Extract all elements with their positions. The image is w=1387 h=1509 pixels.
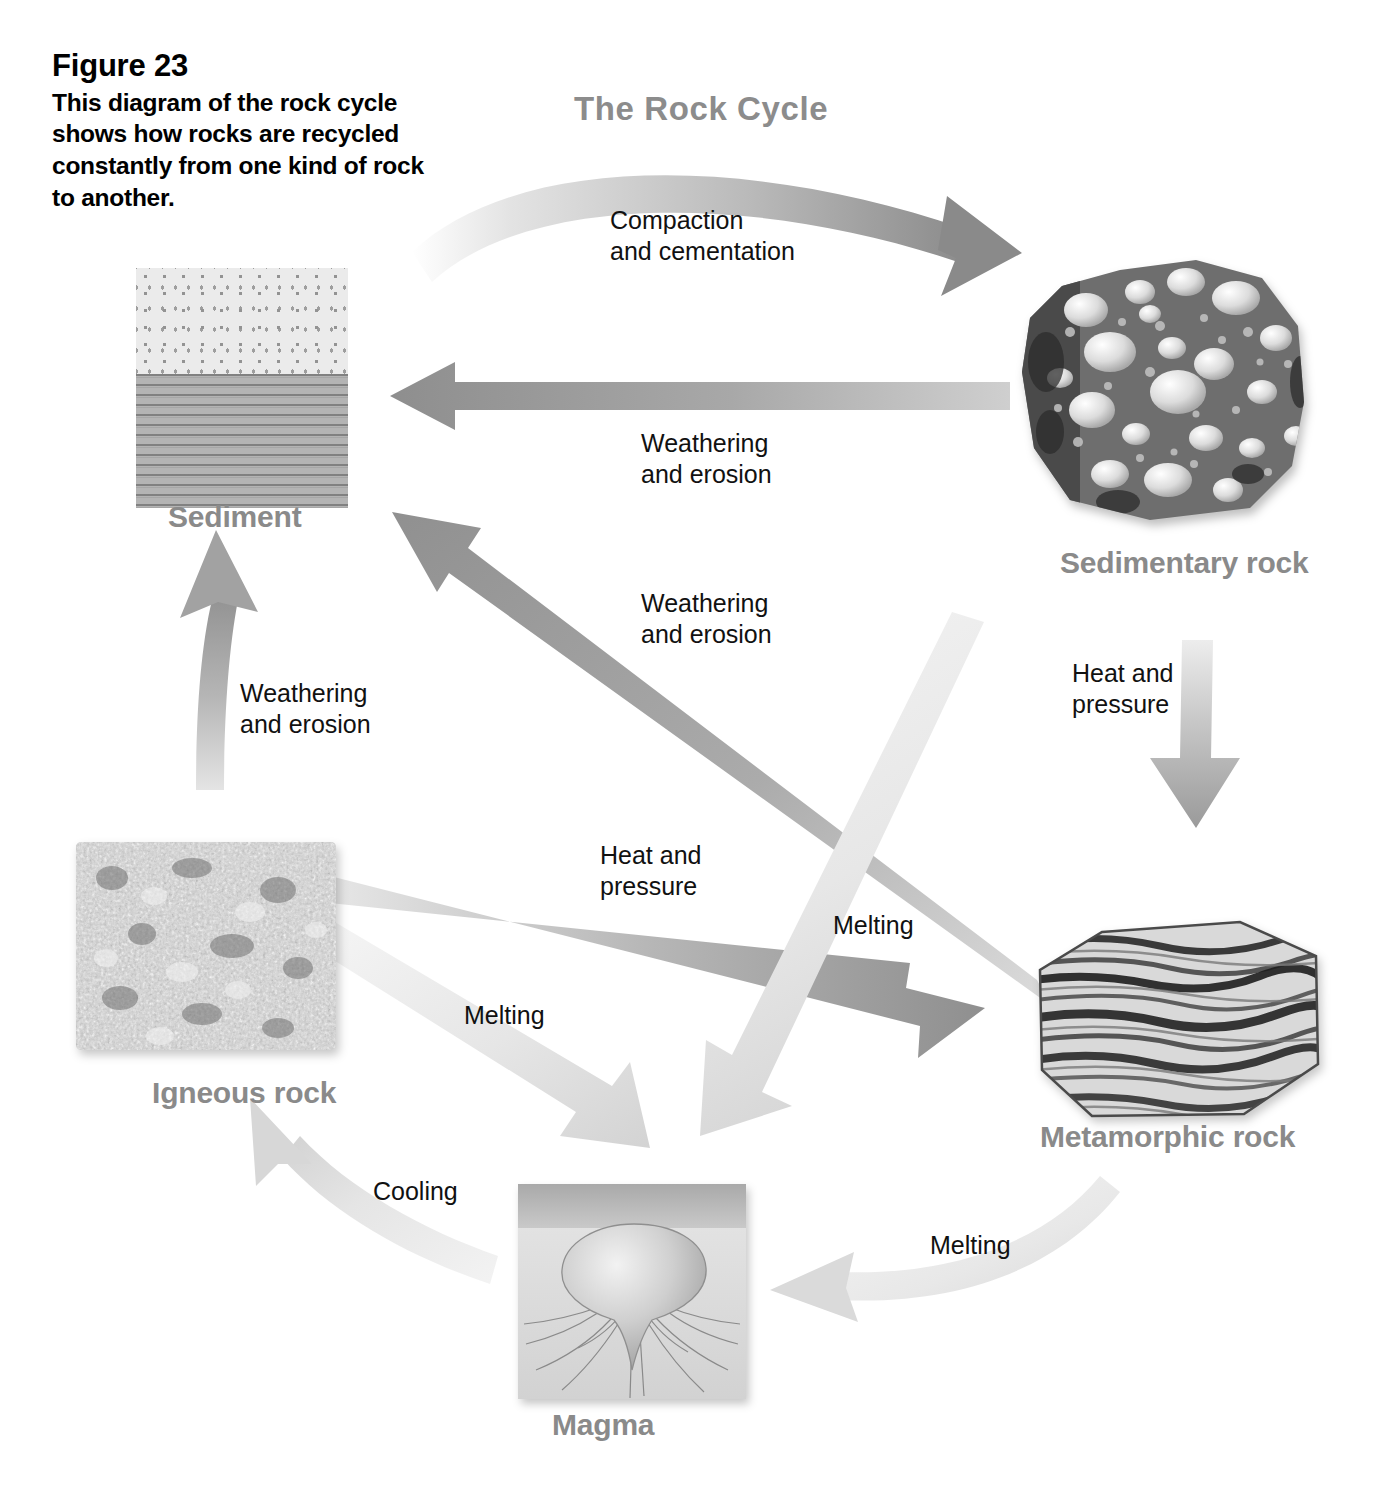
- figure-description: This diagram of the rock cycle shows how…: [52, 87, 424, 214]
- sediment-layers-texture: [136, 374, 348, 508]
- arrow-metamorphic-to-sediment: [392, 512, 1050, 1005]
- edge-label-cooling: Cooling: [373, 1176, 458, 1207]
- edge-label-weathering-erosion-igneous: Weathering and erosion: [240, 678, 371, 739]
- sediment-image: [136, 268, 348, 508]
- arrow-igneous-to-metamorphic: [320, 876, 985, 1058]
- figure-caption: Figure 23 This diagram of the rock cycle…: [52, 48, 424, 214]
- node-label-metamorphic: Metamorphic rock: [1040, 1120, 1295, 1154]
- node-label-sedimentary: Sedimentary rock: [1060, 546, 1309, 580]
- igneous-rock-image: [72, 838, 340, 1054]
- arrow-sedimentary-to-magma: [700, 612, 984, 1136]
- magma-image: [518, 1184, 746, 1399]
- rock-cycle-figure: Figure 23 This diagram of the rock cycle…: [0, 0, 1387, 1509]
- diagram-title: The Rock Cycle: [574, 90, 828, 128]
- sedimentary-rock-image: [1000, 252, 1316, 530]
- node-label-magma: Magma: [552, 1408, 654, 1442]
- edge-label-compaction-and-cementation: Compaction and cementation: [610, 205, 795, 266]
- figure-number: Figure 23: [52, 48, 424, 85]
- node-label-igneous: Igneous rock: [152, 1076, 336, 1110]
- edge-label-heat-and-pressure-sedimentary: Heat and pressure: [1072, 658, 1173, 719]
- edge-label-weathering-erosion-sedimentary: Weathering and erosion: [641, 428, 772, 489]
- arrow-igneous-to-sediment: [180, 530, 258, 790]
- edge-label-weathering-erosion-metamorphic: Weathering and erosion: [641, 588, 772, 649]
- edge-label-melting-igneous: Melting: [464, 1000, 545, 1031]
- arrow-igneous-to-magma: [308, 918, 650, 1148]
- sediment-grains-texture: [136, 268, 348, 376]
- arrow-sedimentary-to-sediment: [390, 362, 1010, 430]
- metamorphic-rock-image: [1030, 918, 1330, 1126]
- node-label-sediment: Sediment: [168, 500, 301, 534]
- edge-label-heat-and-pressure-igneous: Heat and pressure: [600, 840, 701, 901]
- edge-label-melting-metamorphic: Melting: [930, 1230, 1011, 1261]
- edge-label-melting-sedimentary: Melting: [833, 910, 914, 941]
